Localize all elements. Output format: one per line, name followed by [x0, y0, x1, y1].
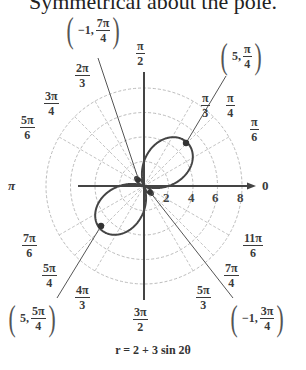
angle-label-5pi-6: 5π6	[20, 114, 35, 141]
angle-label-3pi-2: 3π2	[133, 306, 148, 333]
angle-label-3pi-4: 3π4	[44, 90, 59, 117]
radial-tick-4: 4	[188, 190, 195, 206]
spoke-315	[144, 186, 213, 255]
point-neg1-3pi4	[147, 189, 152, 194]
angle-label-2pi-3: 2π3	[75, 62, 90, 89]
angle-label-7pi-4: 7π4	[224, 262, 239, 289]
angle-label-4pi-3: 4π3	[75, 284, 90, 311]
axis-arrow-icon	[247, 183, 256, 190]
polar-graph-figure: Symmetrical about the pole. 2 4 6 8 π	[0, 0, 306, 370]
angle-label-pi-3: π3	[201, 92, 210, 119]
axis-label-zero: 0	[262, 178, 269, 194]
point-neg1-7pi4	[135, 177, 140, 182]
spoke-45	[144, 117, 213, 186]
spoke-150	[59, 137, 144, 186]
point-label-5-5pi4: ( 5, 5π4 )	[6, 300, 58, 336]
radial-tick-6: 6	[212, 190, 219, 206]
radial-tick-2: 2	[163, 190, 170, 206]
point-5-pi4	[183, 140, 189, 146]
angle-label-5pi-3: 5π3	[196, 284, 211, 311]
angle-label-5pi-4: 5π4	[42, 262, 57, 289]
point-label-neg1-3pi4: ( −1, 3π4 )	[228, 300, 286, 336]
angle-label-pi-2: π2	[136, 40, 145, 67]
angle-label-pi-4: π4	[226, 92, 235, 119]
point-label-neg1-7pi4: ( −1, 7π4 )	[64, 12, 122, 48]
angle-label-11pi-6: 11π6	[243, 232, 263, 259]
point-5-5pi4	[98, 223, 104, 229]
point-label-5-pi4: ( 5, π4 )	[218, 38, 264, 74]
radial-tick-8: 8	[237, 190, 244, 206]
angle-label-pi-6: π6	[250, 116, 259, 143]
equation-caption: r = 2 + 3 sin 2θ	[0, 343, 306, 358]
axis-label-pi: π	[8, 178, 15, 194]
angle-label-7pi-6: 7π6	[22, 232, 37, 259]
